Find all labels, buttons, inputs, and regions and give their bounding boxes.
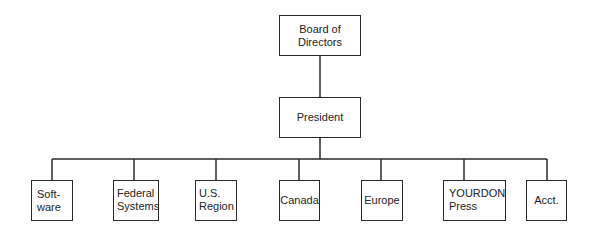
node-label: YOURDON Press: [449, 187, 505, 213]
node-yourdon-press: YOURDON Press: [443, 180, 506, 221]
node-board-of-directors: Board of Directors: [279, 15, 361, 56]
node-federal-systems: Federal Systems: [113, 180, 159, 221]
node-software: Soft- ware: [31, 180, 73, 221]
node-label: Canada: [280, 194, 319, 207]
node-acct: Acct.: [526, 180, 567, 221]
node-president: President: [279, 97, 361, 138]
node-us-region: U.S. Region: [195, 180, 237, 221]
node-label: Soft- ware: [37, 188, 61, 214]
node-label: President: [297, 111, 343, 124]
node-label: Europe: [364, 194, 399, 207]
node-label: Federal Systems: [117, 187, 159, 213]
node-label: Acct.: [534, 194, 558, 207]
node-label: U.S. Region: [199, 187, 234, 213]
node-label: Board of Directors: [298, 23, 342, 49]
node-canada: Canada: [279, 180, 320, 221]
node-europe: Europe: [361, 180, 403, 221]
